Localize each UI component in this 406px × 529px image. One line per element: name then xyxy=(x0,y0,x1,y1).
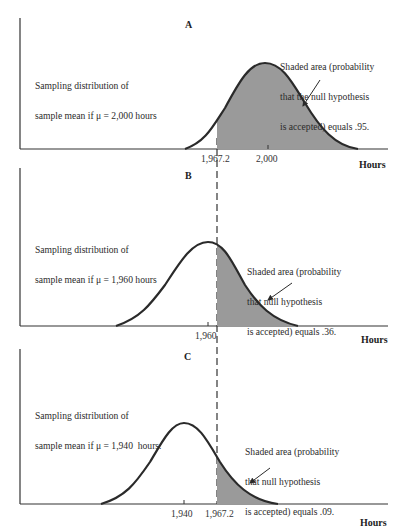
panel-label-a: A xyxy=(185,19,192,30)
distribution-label-c: Sampling distribution of sample mean if … xyxy=(35,391,161,461)
tick-label-mean: 1,960 xyxy=(195,330,217,341)
text-line: that the null hypothesis xyxy=(280,92,374,102)
text-line: that null hypothesis xyxy=(245,477,339,487)
axis-title-a: Hours xyxy=(359,159,386,170)
text-line: sample mean if μ = 1,940 hours. xyxy=(35,441,161,451)
distribution-label-a: Sampling distribution of sample mean if … xyxy=(35,61,157,131)
text-line: is accepted) equals .09. xyxy=(245,507,339,517)
tick-label-critical: 1,967.2 xyxy=(201,153,230,164)
panel-label-c: C xyxy=(184,351,191,362)
tick-label-critical: 1,967.2 xyxy=(205,508,234,519)
axis-title-c: Hours xyxy=(360,517,387,528)
text-line: sample mean if μ = 1,960 hours xyxy=(35,275,157,285)
text-line: Shaded area (probability xyxy=(245,447,339,457)
shaded-area-annotation-b: Shaded area (probability that null hypot… xyxy=(247,247,341,347)
text-line: Sampling distribution of xyxy=(35,245,157,255)
shaded-area-annotation-c: Shaded area (probability that null hypot… xyxy=(245,427,339,527)
shaded-area-annotation-a: Shaded area (probability that the null h… xyxy=(280,42,374,142)
text-line: sample mean if μ = 2,000 hours xyxy=(35,111,157,121)
panel-label-b: B xyxy=(185,170,192,181)
text-line: Sampling distribution of xyxy=(35,411,161,421)
text-line: Shaded area (probability xyxy=(280,62,374,72)
axis-title-b: Hours xyxy=(361,334,388,345)
text-line: Shaded area (probability xyxy=(247,267,341,277)
text-line: Sampling distribution of xyxy=(35,81,157,91)
text-line: is accepted) equals .36. xyxy=(247,327,341,337)
tick-label-mean: 2,000 xyxy=(256,153,278,164)
text-line: that null hypothesis xyxy=(247,297,341,307)
text-line: is accepted) equals .95. xyxy=(280,122,374,132)
tick-label-mean: 1,940 xyxy=(171,508,193,519)
distribution-label-b: Sampling distribution of sample mean if … xyxy=(35,225,157,295)
